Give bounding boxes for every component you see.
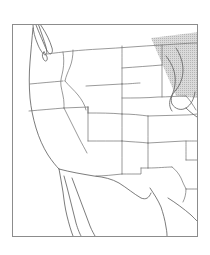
map-figure [0, 0, 210, 255]
outline-map-svg [0, 0, 210, 255]
